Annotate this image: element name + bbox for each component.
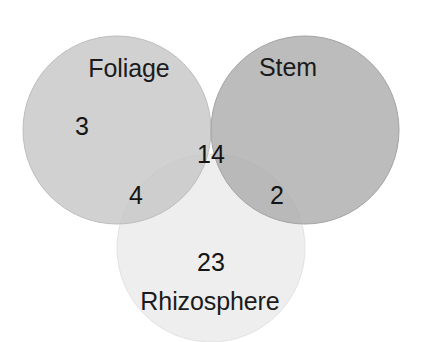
- venn-diagram-figure: Foliage Stem Rhizosphere 3 4 14 2 23: [0, 0, 421, 342]
- venn-circle-foliage[interactable]: [23, 36, 211, 224]
- venn-circles-canvas: [0, 0, 421, 342]
- venn-circle-stem[interactable]: [211, 36, 399, 224]
